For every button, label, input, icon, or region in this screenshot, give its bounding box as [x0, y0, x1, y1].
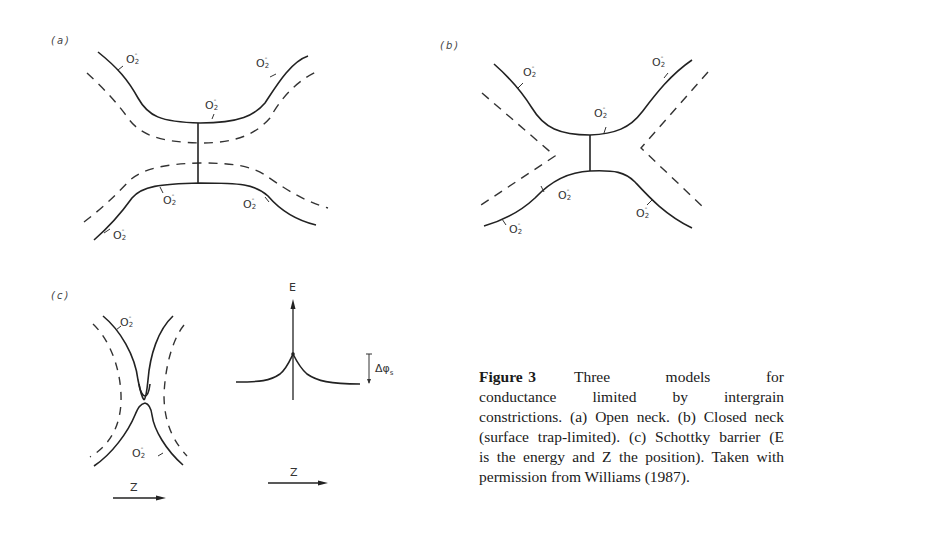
barrier-height-label: Δφs	[375, 362, 393, 377]
caption-line-6: permission from Williams (1987).	[479, 467, 784, 487]
o2-minus-label: O-2	[243, 199, 257, 210]
panel-c-schottky-barrier: (c) O-2 O-2 Z	[0, 280, 420, 520]
open-neck-diagram	[0, 0, 380, 260]
closed-neck-diagram	[410, 0, 740, 260]
caption-line-4: (surface trap-limited). (c) Schottky bar…	[479, 427, 784, 447]
o2-minus-label: O-2	[256, 58, 270, 69]
o2-minus-label: O-2	[163, 195, 177, 206]
o2-minus-label: O-2	[594, 108, 608, 119]
energy-barrier-plot	[0, 280, 420, 520]
caption-line-2: conductance limited by intergrain	[479, 387, 784, 407]
energy-plot-z-label: Z	[290, 466, 298, 479]
figure-number: Figure 3	[479, 368, 536, 385]
o2-minus-label: O-2	[509, 224, 523, 235]
energy-axis-label: E	[289, 281, 296, 294]
o2-minus-label: O-2	[205, 100, 219, 111]
panel-b-closed-neck: (b) O-2 O-2 O-2 O-2 O-2 O-2	[410, 0, 740, 260]
o2-minus-label: O-2	[652, 57, 666, 68]
caption-line-5: is the energy and Z the position). Taken…	[479, 447, 784, 467]
caption-line-1: Figure 3Three models for	[479, 367, 784, 387]
o2-minus-label: O-2	[523, 67, 537, 78]
o2-minus-label: O-2	[558, 190, 572, 201]
o2-minus-label: O-2	[126, 54, 140, 65]
caption-line-3: constrictions. (a) Open neck. (b) Closed…	[479, 407, 784, 427]
o2-minus-label: O-2	[113, 230, 127, 241]
figure-caption: Figure 3Three models for conductance lim…	[479, 367, 784, 487]
o2-minus-label: O-2	[636, 208, 650, 219]
panel-a-open-neck: (a) O-2 O-2 O-2 O-2 O-2 O-2	[0, 0, 380, 260]
